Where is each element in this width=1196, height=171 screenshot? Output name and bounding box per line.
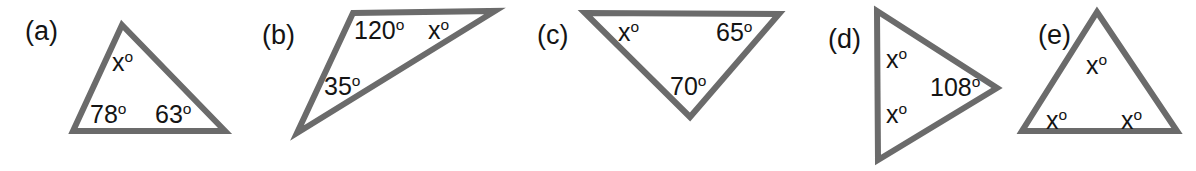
angle-label-e-apex: xo	[1086, 53, 1107, 78]
angle-value: x	[1086, 51, 1099, 79]
angle-label-d-top-left: xo	[886, 47, 907, 72]
angle-label-c-top-left: xo	[618, 20, 639, 45]
degree-icon: o	[1099, 51, 1108, 68]
angle-label-e-bottom-right: xo	[1121, 108, 1142, 133]
angle-value: x	[886, 45, 899, 73]
degree-icon: o	[698, 72, 707, 89]
angle-value: x	[886, 100, 899, 128]
panel-label-e: (e)	[1038, 22, 1071, 49]
panel-label-d: (d)	[828, 26, 861, 53]
angle-value: x	[618, 18, 631, 46]
geometry-figure: (a)xo78o63o(b)120oxo35o(c)xo65o70o(d)xox…	[0, 0, 1196, 171]
degree-icon: o	[352, 72, 361, 89]
triangles-layer	[0, 0, 1196, 171]
degree-icon: o	[744, 18, 753, 35]
angle-value: 108	[930, 73, 972, 101]
degree-icon: o	[396, 16, 405, 33]
panel-label-c: (c)	[537, 22, 568, 49]
angle-label-d-bottom-left: xo	[886, 102, 907, 127]
angle-value: 70	[670, 72, 698, 100]
angle-value: x	[428, 16, 441, 44]
angle-value: 35	[324, 72, 352, 100]
angle-value: 78	[90, 100, 118, 128]
degree-icon: o	[441, 16, 450, 33]
angle-value: x	[1121, 106, 1134, 134]
degree-icon: o	[1134, 106, 1143, 123]
degree-icon: o	[972, 73, 981, 90]
panel-label-a: (a)	[25, 18, 58, 45]
degree-icon: o	[899, 45, 908, 62]
degree-icon: o	[183, 100, 192, 117]
degree-icon: o	[899, 100, 908, 117]
angle-value: 65	[716, 18, 744, 46]
degree-icon: o	[631, 18, 640, 35]
angle-label-a-apex: xo	[112, 50, 133, 75]
angle-value: 63	[155, 100, 183, 128]
angle-label-c-bottom: 70o	[670, 74, 706, 99]
angle-label-a-bottom-left: 78o	[90, 102, 126, 127]
angle-label-a-bottom-right: 63o	[155, 102, 191, 127]
angle-label-b-bottom-left: 35o	[324, 74, 360, 99]
angle-label-e-bottom-left: xo	[1046, 108, 1067, 133]
panel-label-b: (b)	[262, 22, 295, 49]
angle-label-b-top-right: xo	[428, 18, 449, 43]
degree-icon: o	[125, 48, 134, 65]
angle-value: 120	[354, 16, 396, 44]
degree-icon: o	[118, 100, 127, 117]
angle-label-b-top-left: 120o	[354, 18, 404, 43]
degree-icon: o	[1059, 106, 1068, 123]
angle-value: x	[1046, 106, 1059, 134]
angle-value: x	[112, 48, 125, 76]
angle-label-c-top-right: 65o	[716, 20, 752, 45]
angle-label-d-right: 108o	[930, 75, 980, 100]
